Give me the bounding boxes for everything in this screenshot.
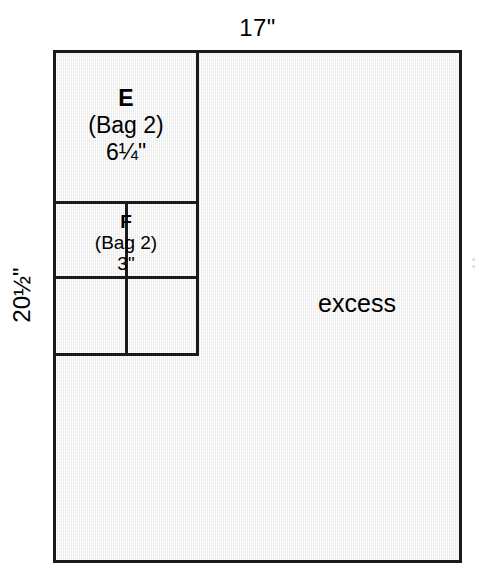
- piece-e-id: E: [53, 85, 199, 111]
- excess-region-label: excess: [252, 289, 462, 317]
- piece-f-bag: (Bag 2): [44, 232, 208, 254]
- material-sheet: E (Bag 2) 6¼" F (Bag 2) 3" excess: [53, 50, 462, 563]
- piece-f-divider-horizontal: [56, 276, 196, 279]
- dimension-label-height: 20½": [9, 235, 35, 355]
- dimension-label-width: 17": [53, 14, 462, 42]
- piece-f-label: F (Bag 2) 3": [44, 211, 208, 274]
- excess-text: excess: [252, 289, 462, 317]
- piece-e-label: E (Bag 2) 6¼": [53, 85, 199, 165]
- piece-f-size: 3": [44, 254, 208, 274]
- piece-e-bag: (Bag 2): [53, 111, 199, 139]
- cutting-diagram: 17" 20½" E (Bag 2) 6¼" F (Bag 2) 3" exce…: [0, 0, 479, 583]
- piece-e-size: 6¼": [53, 139, 199, 165]
- piece-f-id: F: [44, 211, 208, 232]
- page-edge-artifact: • • •: [467, 255, 479, 269]
